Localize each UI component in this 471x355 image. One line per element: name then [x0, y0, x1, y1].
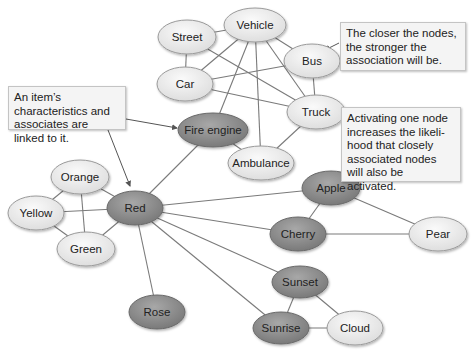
- node-sunset: Sunset: [272, 266, 328, 298]
- node-vehicle: Vehicle: [224, 8, 286, 42]
- node-ambulance: Ambulance: [228, 146, 294, 180]
- node-yellow: Yellow: [8, 196, 64, 230]
- node-label: Pear: [426, 228, 450, 240]
- node-green: Green: [57, 232, 115, 266]
- node-cloud: Cloud: [327, 311, 383, 345]
- node-label: Cherry: [281, 228, 316, 240]
- node-bus: Bus: [284, 44, 340, 78]
- node-label: Orange: [61, 171, 99, 183]
- node-pear: Pear: [409, 217, 467, 251]
- callout-item-characteristics: An item’s characteristics and associates…: [8, 86, 126, 130]
- node-label: Fire engine: [184, 124, 242, 136]
- node-label: Cloud: [340, 322, 370, 334]
- node-label: Rose: [144, 306, 171, 318]
- node-label: Green: [70, 243, 102, 255]
- callout-arrow-characteristics-2: [108, 130, 130, 186]
- node-orange: Orange: [51, 160, 109, 194]
- edge-red-apple: [135, 188, 331, 208]
- node-label: Ambulance: [232, 157, 290, 169]
- callout-activating-node: Activating one node increases the likeli…: [341, 107, 461, 182]
- node-label: Bus: [302, 55, 322, 67]
- node-label: Sunrise: [262, 322, 301, 334]
- node-label: Car: [176, 78, 195, 90]
- node-rose: Rose: [129, 295, 185, 329]
- node-label: Street: [172, 31, 203, 43]
- edge-vehicle-ambulance: [255, 25, 261, 163]
- node-fire-engine: Fire engine: [178, 113, 248, 147]
- node-street: Street: [158, 20, 216, 54]
- node-label: Vehicle: [236, 19, 273, 31]
- node-red: Red: [107, 191, 163, 225]
- node-label: Apple: [316, 182, 345, 194]
- node-label: Red: [124, 202, 145, 214]
- node-cherry: Cherry: [270, 217, 326, 251]
- node-sunrise: Sunrise: [253, 312, 309, 344]
- edge-red-sunset: [135, 208, 300, 282]
- node-label: Yellow: [20, 207, 54, 219]
- node-car: Car: [157, 67, 213, 101]
- callout-arrow-characteristics: [126, 119, 177, 128]
- node-label: Truck: [302, 106, 331, 118]
- callout-closer-nodes: The closer the nodes, the stronger the a…: [340, 22, 466, 71]
- node-truck: Truck: [287, 95, 345, 129]
- node-label: Sunset: [282, 276, 319, 288]
